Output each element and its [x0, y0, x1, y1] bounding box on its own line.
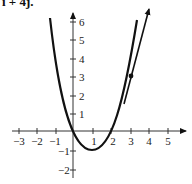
svg-text:6: 6 [79, 16, 85, 28]
svg-text:−1: −1 [58, 145, 70, 157]
tangent-point [129, 74, 134, 79]
svg-text:4: 4 [146, 135, 152, 147]
svg-text:−2: −2 [31, 135, 43, 147]
svg-text:2: 2 [79, 90, 85, 102]
svg-text:2: 2 [110, 135, 116, 147]
svg-text:−2: −2 [58, 164, 70, 176]
svg-text:4: 4 [79, 53, 85, 65]
svg-text:5: 5 [165, 135, 171, 147]
svg-text:3: 3 [79, 71, 85, 83]
svg-text:3: 3 [128, 135, 134, 147]
graph: −3 −2 −1 1 2 3 4 5 6 5 4 3 2 1 −1 −2 [0, 0, 192, 184]
svg-text:1: 1 [79, 108, 85, 120]
svg-text:5: 5 [79, 34, 85, 46]
x-tick-labels: −3 −2 −1 1 2 3 4 5 [13, 135, 171, 147]
svg-text:1: 1 [91, 135, 97, 147]
svg-text:−3: −3 [13, 135, 25, 147]
